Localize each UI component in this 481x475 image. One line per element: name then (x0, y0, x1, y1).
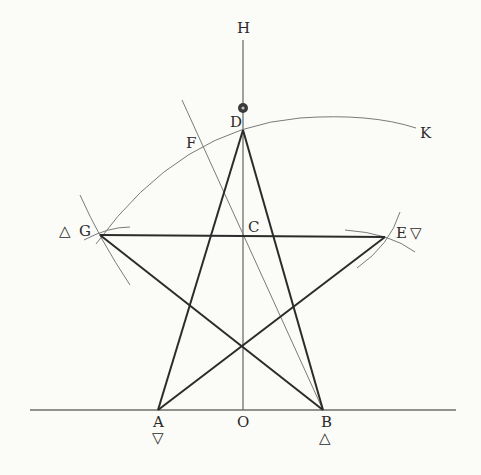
label-c: C (248, 218, 259, 236)
label-d: D (230, 113, 242, 131)
label-h: H (237, 19, 250, 37)
edge-g-b (100, 235, 323, 410)
triangle-down-icon: ▽ (410, 224, 422, 242)
pentagram-construction-diagram: H D F K △ G C E ▽ A ▽ O B △ (0, 0, 481, 475)
label-f: F (186, 134, 196, 152)
triangle-up-icon: △ (59, 222, 71, 240)
label-o: O (237, 413, 249, 431)
edge-g-e (100, 235, 385, 237)
label-k: K (420, 124, 432, 142)
edge-a-e (158, 237, 385, 410)
sun-symbol-dot (241, 106, 244, 109)
label-e: E (396, 224, 407, 242)
line-fb (182, 100, 323, 410)
label-g: G (79, 222, 91, 240)
triangle-up-icon: △ (319, 429, 331, 447)
edge-a-d (158, 130, 243, 410)
edge-d-b (243, 130, 323, 410)
triangle-down-icon: ▽ (152, 429, 164, 447)
